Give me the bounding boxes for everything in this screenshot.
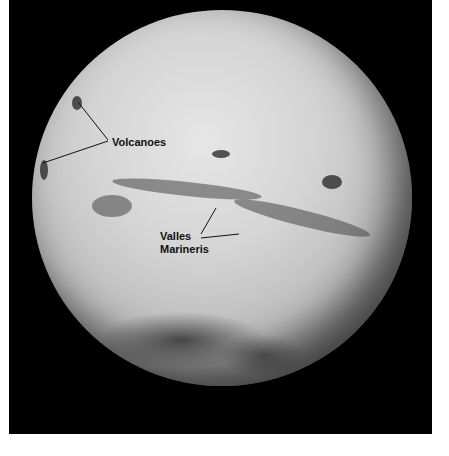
valles-marineris-label-line2: Marineris [160,243,209,255]
pointer-lines [0,0,449,456]
volcanoes-label: Volcanoes [112,136,166,148]
valles-marineris-label-line1: Valles [160,230,191,242]
